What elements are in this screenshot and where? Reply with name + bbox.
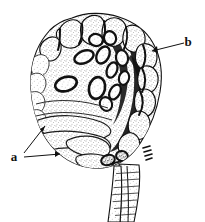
label-a: a [11,149,18,164]
figure-container: a b [0,0,205,222]
specimen-illustration: a b [0,0,205,222]
label-b: b [184,34,191,49]
